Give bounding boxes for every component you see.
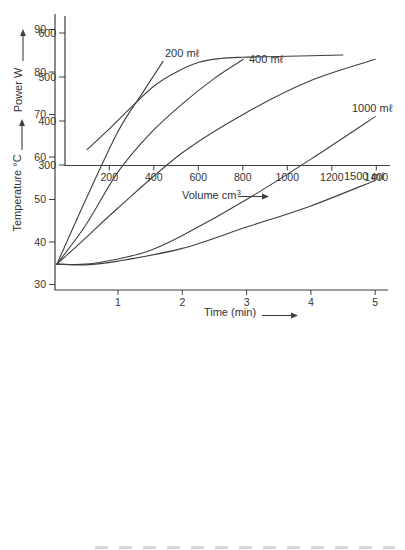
curve-unlabeled [87, 55, 343, 150]
y-tick-label: 600 [38, 27, 56, 39]
axis-arrowhead [262, 194, 269, 200]
cropped-text-remnant [95, 546, 395, 549]
power-volume-chart: 600500400300200400600800100012001400Volu… [0, 0, 405, 214]
x-tick-label: 1400 [365, 171, 389, 183]
x-axis-title: Time (min) [204, 306, 256, 318]
scanned-figure-page: 9080706050403012345200 mℓ400 mℓ1000 mℓ15… [0, 0, 405, 550]
x-tick-label: 4 [308, 296, 314, 308]
x-tick-label: 1000 [276, 171, 300, 183]
axis-arrowhead [20, 29, 26, 36]
x-tick-label: 1200 [320, 171, 344, 183]
x-axis-title-superscript: 3 [236, 188, 241, 197]
x-tick-label: 200 [101, 171, 119, 183]
axes-lines [65, 16, 390, 166]
x-tick-label: 800 [234, 171, 252, 183]
y-tick-label: 400 [38, 115, 56, 127]
y-axis-title: Power W [12, 67, 24, 112]
x-tick-label: 2 [179, 296, 185, 308]
y-tick-label: 30 [34, 278, 46, 290]
x-axis-title-text: Volume cm [182, 189, 236, 201]
x-axis-title: Volume cm3 [182, 188, 241, 201]
y-tick-label: 500 [38, 71, 56, 83]
y-tick-label: 40 [34, 236, 46, 248]
x-tick-label: 400 [145, 171, 163, 183]
y-tick-label: 300 [38, 159, 56, 171]
x-tick-label: 1 [115, 296, 121, 308]
axis-arrowhead [291, 313, 298, 319]
x-tick-label: 5 [372, 296, 378, 308]
x-tick-label: 600 [190, 171, 208, 183]
x-axis-title-text: Time (min) [204, 306, 256, 318]
